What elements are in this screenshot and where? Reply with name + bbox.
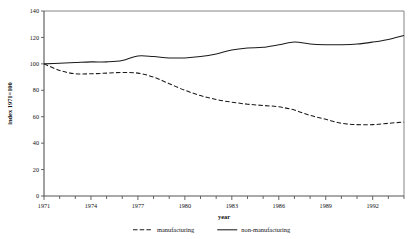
y-tick-label: 40: [33, 139, 39, 146]
x-tick-label: 1989: [320, 202, 332, 209]
x-tick-label: 1980: [179, 202, 191, 209]
plot-axes: [44, 11, 404, 196]
x-tick-label: 1983: [226, 202, 238, 209]
line-chart: 0204060801001201401971197419771980198319…: [0, 0, 416, 239]
x-tick-label: 1977: [132, 202, 144, 209]
y-tick-label: 100: [30, 60, 39, 67]
y-tick-label: 80: [33, 86, 39, 93]
series-line-non-manufacturing: [44, 35, 404, 63]
x-tick-label: 1974: [85, 202, 97, 209]
legend-label-non-manufacturing: non-manufacturing: [241, 226, 291, 233]
y-tick-label: 20: [33, 166, 39, 173]
plot-frame: [44, 11, 404, 196]
y-tick-label: 120: [30, 34, 39, 41]
chart-container: 0204060801001201401971197419771980198319…: [0, 0, 416, 239]
y-axis-title: index 1971=100: [6, 82, 13, 125]
x-tick-label: 1992: [367, 202, 379, 209]
series-line-manufacturing: [44, 64, 404, 125]
x-axis-title: year: [218, 213, 230, 220]
y-tick-label: 0: [36, 192, 39, 199]
x-tick-label: 1986: [273, 202, 285, 209]
x-tick-label: 1971: [38, 202, 50, 209]
y-tick-label: 140: [30, 7, 39, 14]
legend-label-manufacturing: manufacturing: [157, 226, 195, 233]
y-tick-label: 60: [33, 113, 39, 120]
